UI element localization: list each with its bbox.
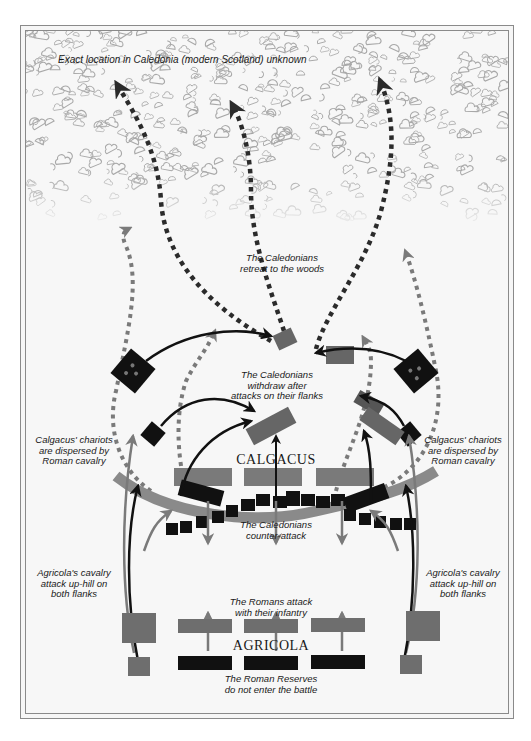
battle-map: Exact location in Caledonia (modern Scot… xyxy=(26,31,508,713)
location-note: Exact location in Caledonia (modern Scot… xyxy=(58,54,307,65)
annotation-reserves-line: do not enter the battle xyxy=(225,684,317,695)
annotation-counter-attack-line: The Caledonians xyxy=(240,519,312,530)
flank-arrow xyxy=(146,331,271,361)
annotation-chariots-left: Calgacus' chariotsare dispersed byRoman … xyxy=(35,434,113,466)
commander-agricola: AGRICOLA xyxy=(233,638,310,653)
roman-reserve-block xyxy=(311,655,365,669)
annotation-retreat-line: retreat to the woods xyxy=(240,263,324,274)
annotation-reserves: The Roman Reservesdo not enter the battl… xyxy=(225,673,318,695)
flank-arrow xyxy=(161,399,254,426)
annotation-chariots-left-line: are dispersed by xyxy=(39,445,110,456)
caledonian-unit-withdrawn xyxy=(246,407,297,445)
annotation-cavalry-left: Agricola's cavalryattack up-hill onboth … xyxy=(36,567,112,599)
counter-block xyxy=(343,483,390,513)
roman-reserve-block xyxy=(244,656,298,670)
annotation-cavalry-left-line: attack up-hill on xyxy=(41,578,108,589)
annotation-counter-attack-line: counter-attack xyxy=(246,530,307,541)
annotation-chariots-right-line: Calgacus' chariots xyxy=(424,434,502,445)
caledonian-unit-retreating xyxy=(273,328,298,351)
annotation-withdraw-line: withdraw after xyxy=(247,380,307,391)
annotation-reserves-line: The Roman Reserves xyxy=(225,673,318,684)
annotation-withdraw-line: The Caledonians xyxy=(241,369,313,380)
annotation-cavalry-right-line: Agricola's cavalry xyxy=(425,567,501,578)
roman-cavalry-reserve-left xyxy=(128,657,150,676)
annotation-roman-attack-line: with their infantry xyxy=(235,607,308,618)
roman-cavalry-left xyxy=(122,613,156,643)
annotation-cavalry-right: Agricola's cavalryattack up-hill onboth … xyxy=(425,567,501,599)
roman-cavalry-reserve-right xyxy=(400,655,422,674)
annotation-chariots-left-line: Roman cavalry xyxy=(42,455,107,466)
caledonian-line-block xyxy=(316,468,374,486)
annotation-roman-attack: The Romans attackwith their infantry xyxy=(230,596,314,618)
roman-infantry-block xyxy=(311,618,365,632)
map-canvas: Exact location in Caledonia (modern Scot… xyxy=(25,30,509,714)
chariot-loop-left-inner xyxy=(179,333,215,491)
annotation-retreat: The Caledoniansretreat to the woods xyxy=(240,252,324,274)
roman-infantry-block xyxy=(178,619,232,633)
annotation-cavalry-right-line: attack up-hill on xyxy=(430,578,497,589)
annotation-chariots-right-line: are dispersed by xyxy=(428,445,499,456)
annotation-cavalry-left-line: Agricola's cavalry xyxy=(36,567,112,578)
annotation-withdraw: The Caledonianswithdraw afterattacks on … xyxy=(231,369,323,401)
annotation-withdraw-line: attacks on their flanks xyxy=(231,390,323,401)
caledonian-line-block xyxy=(244,468,302,486)
annotation-cavalry-right-line: both flanks xyxy=(440,588,486,599)
map-frame: Exact location in Caledonia (modern Scot… xyxy=(20,25,514,719)
annotation-roman-attack-line: The Romans attack xyxy=(230,596,314,607)
roman-infantry-block xyxy=(244,619,298,633)
caledonian-line xyxy=(174,468,374,486)
chariot-block xyxy=(110,348,155,393)
annotation-retreat-line: The Caledonians xyxy=(246,252,318,263)
roman-reserve-block xyxy=(178,656,232,670)
roman-cavalry-right xyxy=(406,611,440,641)
annotation-chariots-right: Calgacus' chariotsare dispersed byRoman … xyxy=(424,434,502,466)
annotation-counter-attack: The Caledonianscounter-attack xyxy=(240,519,312,541)
annotation-chariots-right-line: Roman cavalry xyxy=(431,455,496,466)
annotation-chariots-left-line: Calgacus' chariots xyxy=(35,434,113,445)
annotation-cavalry-left-line: both flanks xyxy=(51,588,97,599)
